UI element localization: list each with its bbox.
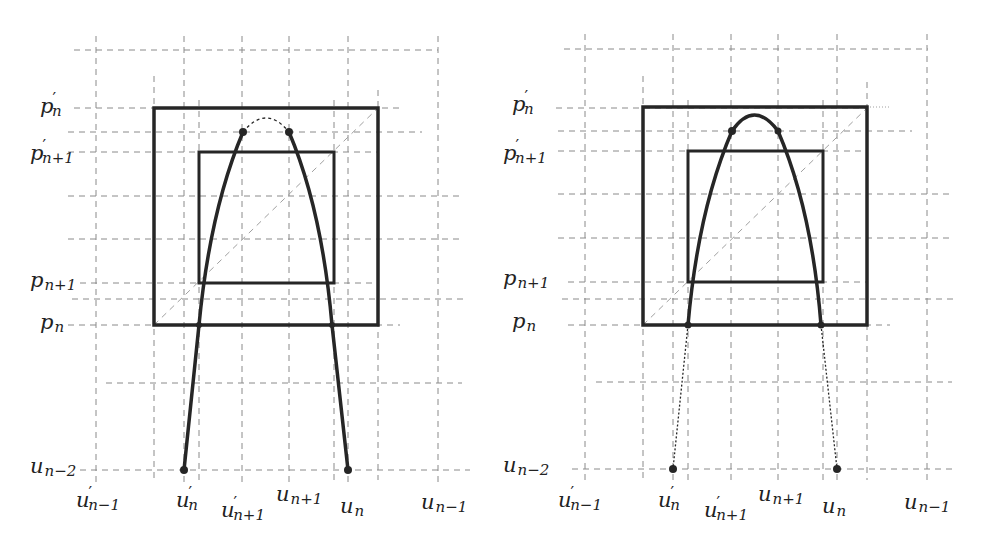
label-p-n1: pn+1 <box>503 268 549 289</box>
label-u-prime-n-minus-1: u′n−1 <box>558 490 602 511</box>
label-u-n-minus-1: un−1 <box>904 492 950 513</box>
label-u-n: un <box>822 496 846 517</box>
label-subscript: n+1 <box>42 149 74 167</box>
label-subscript: n−1 <box>88 496 120 514</box>
label-p-n1: pn+1 <box>30 270 76 291</box>
label-subscript: n <box>188 496 198 514</box>
label-base: u <box>276 482 290 506</box>
label-subscript: n−2 <box>45 462 77 480</box>
right-panel: p′n p′n+1 pn+1 pn un−2 u′n−1 u′n u′n+1 u… <box>490 0 980 543</box>
label-subscript: n−2 <box>518 461 550 479</box>
label-subscript: n+1 <box>773 490 805 508</box>
left-leg-dotted <box>673 325 688 469</box>
right-curve <box>778 131 821 325</box>
label-base: u <box>758 482 772 506</box>
points <box>669 127 841 473</box>
label-subscript: n+1 <box>44 276 76 294</box>
label-subscript: n <box>355 502 365 520</box>
label-base: p <box>40 310 53 334</box>
label-subscript: n+1 <box>291 490 323 508</box>
label-p-n: pn <box>512 311 536 332</box>
label-subscript: n−1 <box>436 498 468 516</box>
label-base: u <box>904 490 918 514</box>
label-u-n-plus-1: un+1 <box>758 484 804 505</box>
label-u-prime-n: u′n <box>176 490 198 511</box>
grid-lines <box>556 34 956 484</box>
label-base: u <box>503 453 517 477</box>
label-u-prime-n-plus-1: u′n+1 <box>221 500 265 521</box>
top-arc-dashed <box>243 118 289 132</box>
right-curve <box>289 132 348 470</box>
left-panel: p′n p′n+1 pn+1 pn un−2 u′n−1 u′n u′n+1 u… <box>0 0 490 543</box>
label-p-prime-n: p′n <box>512 94 534 115</box>
label-subscript: n <box>524 100 534 118</box>
label-base: p <box>503 266 516 290</box>
label-subscript: n−1 <box>919 498 951 516</box>
diagonal-line <box>154 108 378 325</box>
label-p-n: pn <box>40 312 64 333</box>
points <box>180 128 352 474</box>
left-curve <box>688 131 732 325</box>
label-subscript: n−1 <box>570 496 602 514</box>
right-diagram <box>490 0 985 543</box>
label-base: u <box>30 454 44 478</box>
label-subscript: n+1 <box>515 149 547 167</box>
label-subscript: n <box>670 496 680 514</box>
label-subscript: n+1 <box>233 506 265 524</box>
label-base: p <box>30 268 43 292</box>
grid-lines <box>68 36 470 484</box>
label-p-prime-n1: p′n+1 <box>503 143 547 164</box>
label-base: u <box>340 494 354 518</box>
label-u-prime-n: u′n <box>658 490 680 511</box>
label-u-n-minus-2: un−2 <box>503 455 549 476</box>
label-base: u <box>822 494 836 518</box>
label-subscript: n+1 <box>517 274 549 292</box>
label-u-prime-n-minus-1: u′n−1 <box>76 490 120 511</box>
label-base: u <box>421 490 435 514</box>
label-p-prime-n1: p′n+1 <box>30 143 74 164</box>
label-u-n-minus-2: un−2 <box>30 456 76 477</box>
label-subscript: n <box>526 317 536 335</box>
label-subscript: n <box>52 102 62 120</box>
label-u-n-minus-1: un−1 <box>421 492 467 513</box>
label-subscript: n <box>837 502 847 520</box>
label-subscript: n+1 <box>716 506 748 524</box>
inner-box <box>199 152 334 283</box>
diagonal-line <box>643 108 867 325</box>
top-arc-solid <box>732 115 778 131</box>
label-subscript: n <box>54 318 64 336</box>
label-u-n: un <box>340 496 364 517</box>
label-p-prime-n: p′n <box>40 96 62 117</box>
label-u-n-plus-1: un+1 <box>276 484 322 505</box>
left-curve <box>184 132 243 470</box>
label-u-prime-n-plus-1: u′n+1 <box>704 500 748 521</box>
label-base: p <box>512 309 525 333</box>
